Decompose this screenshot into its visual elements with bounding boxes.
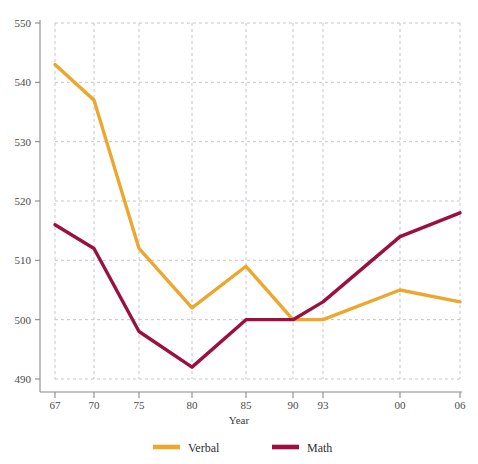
y-axis-tick-label: 550 <box>15 17 32 29</box>
x-axis-tick-label: 93 <box>318 399 330 411</box>
line-chart: 490500510520530540550 677075808590930006… <box>0 0 478 464</box>
legend-label-verbal: Verbal <box>188 441 220 455</box>
chart-container: 490500510520530540550 677075808590930006… <box>0 0 478 464</box>
x-axis-tick-label: 70 <box>89 399 101 411</box>
y-axis-tick-label: 520 <box>15 195 32 207</box>
x-axis-title: Year <box>229 414 250 426</box>
y-axis-tick-label: 490 <box>15 373 32 385</box>
x-axis-tick-label: 80 <box>187 399 199 411</box>
legend-label-math: Math <box>307 441 332 455</box>
x-axis-tick-label: 85 <box>241 399 253 411</box>
x-axis-tick-label: 90 <box>288 399 300 411</box>
y-axis-tick-label: 510 <box>15 254 32 266</box>
y-axis-tick-label: 530 <box>15 136 32 148</box>
y-axis-tick-label: 540 <box>15 76 32 88</box>
x-axis-tick-label: 75 <box>134 399 146 411</box>
chart-background <box>0 0 478 464</box>
x-axis-tick-label: 06 <box>455 399 467 411</box>
x-axis-tick-label: 00 <box>395 399 407 411</box>
y-axis-tick-label: 500 <box>15 314 32 326</box>
x-axis-tick-label: 67 <box>50 399 62 411</box>
